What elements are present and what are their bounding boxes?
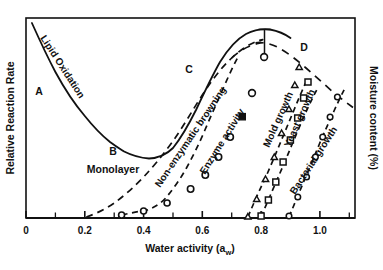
- annotation-monolayer: Monolayer: [87, 163, 140, 175]
- x-tick-label-5: 1.0: [313, 225, 327, 236]
- water-activity-stability-map: 0 0.2 0.4 0.6 0.8 1.0 Water activity (aw…: [0, 0, 383, 270]
- x-tick-label-1: 0.2: [78, 225, 92, 236]
- y-axis-title-left: Relative Reaction Rate: [4, 61, 16, 174]
- x-axis-title: Water activity (aw): [145, 242, 234, 257]
- y-axis-title-right: Moisture content (%): [368, 66, 380, 170]
- annotation-non-enzymatic-browning: Non-enzymatic browning: [153, 84, 229, 189]
- x-tick-label-3: 0.6: [195, 225, 209, 236]
- x-tick-label-2: 0.4: [137, 225, 151, 236]
- x-tick-label-4: 0.8: [254, 225, 268, 236]
- zone-label-d: D: [300, 41, 308, 53]
- zone-label-a: A: [35, 85, 43, 97]
- annotation-lipid-oxidation: Lipid Oxidation: [38, 33, 87, 100]
- zone-label-b: B: [109, 145, 117, 157]
- zone-label-c: C: [185, 63, 193, 75]
- chart-page: 0 0.2 0.4 0.6 0.8 1.0 Water activity (aw…: [0, 0, 383, 270]
- x-tick-label-0: 0: [23, 225, 29, 236]
